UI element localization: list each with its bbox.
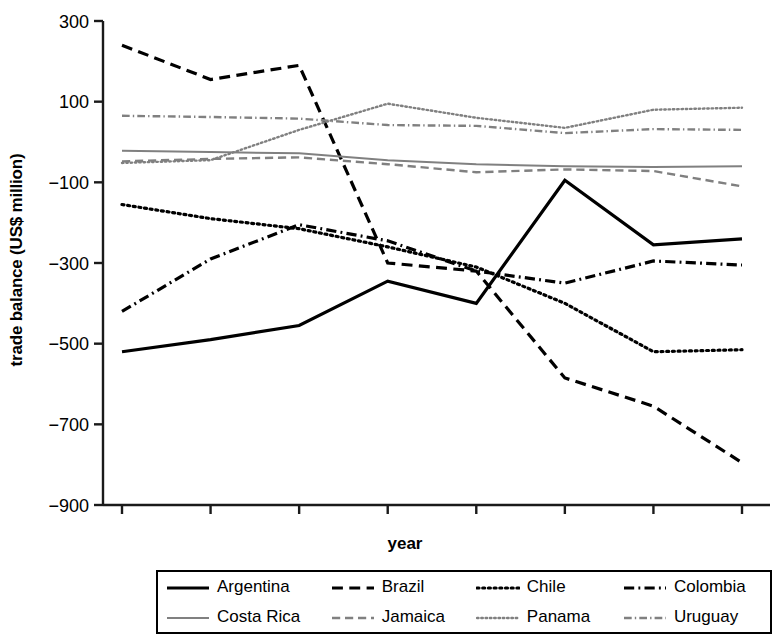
legend-item-panama: Panama xyxy=(476,607,623,627)
legend-swatch-panama xyxy=(476,610,520,624)
series-line-panama xyxy=(122,104,742,163)
legend-label-uruguay: Uruguay xyxy=(674,607,738,627)
legend-swatch-argentina xyxy=(166,580,210,594)
legend-item-brazil: Brazil xyxy=(331,577,476,597)
legend-label-brazil: Brazil xyxy=(382,577,425,597)
x-tick-label: 2000 xyxy=(368,518,408,520)
legend: Argentina Brazil Chile Colombia Costa Ri… xyxy=(156,570,772,634)
x-tick-label: 2004 xyxy=(722,518,762,520)
legend-item-colombia: Colombia xyxy=(623,577,770,597)
legend-swatch-colombia xyxy=(623,580,667,594)
legend-item-uruguay: Uruguay xyxy=(623,607,770,627)
y-tick-label: −900 xyxy=(48,496,89,516)
chart-figure: trade balance (US$ million) −900−700−500… xyxy=(0,0,780,635)
series-line-argentina xyxy=(122,180,742,351)
legend-item-argentina: Argentina xyxy=(166,577,331,597)
y-tick-label: 300 xyxy=(59,12,89,32)
legend-row-1: Argentina Brazil Chile Colombia xyxy=(158,572,770,602)
legend-swatch-chile xyxy=(476,580,520,594)
legend-label-argentina: Argentina xyxy=(217,577,290,597)
x-tick-label: 2003 xyxy=(633,518,673,520)
y-tick-label: −100 xyxy=(48,173,89,193)
legend-item-jamaica: Jamaica xyxy=(331,607,476,627)
legend-swatch-brazil xyxy=(331,580,375,594)
legend-swatch-costa-rica xyxy=(166,610,210,624)
series-line-chile xyxy=(122,205,742,352)
x-tick-label: 1999 xyxy=(279,518,319,520)
x-tick-label: 2002 xyxy=(545,518,585,520)
x-tick-label: 1997 xyxy=(102,518,142,520)
series-line-uruguay xyxy=(122,116,742,133)
x-tick-label: 1998 xyxy=(191,518,231,520)
y-tick-label: −300 xyxy=(48,254,89,274)
y-tick-label: −500 xyxy=(48,334,89,354)
legend-label-panama: Panama xyxy=(527,607,590,627)
legend-item-costa-rica: Costa Rica xyxy=(166,607,331,627)
series-line-brazil xyxy=(122,45,742,462)
legend-row-2: Costa Rica Jamaica Panama Uruguay xyxy=(158,602,770,632)
x-axis-title-text: year xyxy=(388,534,423,554)
legend-label-chile: Chile xyxy=(527,577,566,597)
legend-label-costa-rica: Costa Rica xyxy=(217,607,300,627)
legend-swatch-uruguay xyxy=(623,610,667,624)
plot-area: −900−700−500−300−10010030019971998199920… xyxy=(0,0,780,520)
y-tick-label: 100 xyxy=(59,92,89,112)
legend-item-chile: Chile xyxy=(476,577,623,597)
legend-label-colombia: Colombia xyxy=(674,577,746,597)
y-tick-label: −700 xyxy=(48,415,89,435)
legend-label-jamaica: Jamaica xyxy=(382,607,445,627)
x-axis-title: year xyxy=(0,534,780,554)
legend-swatch-jamaica xyxy=(331,610,375,624)
x-tick-label: 2001 xyxy=(456,518,496,520)
series-line-colombia xyxy=(122,225,742,312)
